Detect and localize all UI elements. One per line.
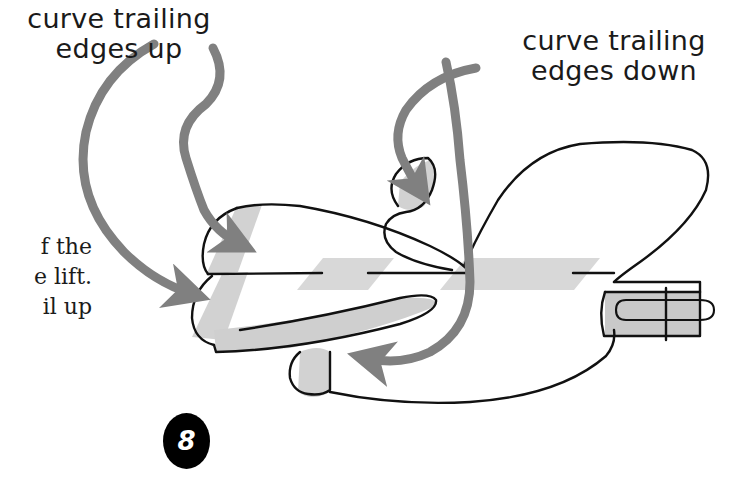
arrow-up-inner xyxy=(184,48,241,244)
fuselage-center-line-a xyxy=(208,273,322,274)
callout-curve-trailing-edges-up: curve trailing edges up xyxy=(0,4,244,64)
tail-step-a xyxy=(614,282,700,292)
figure-canvas: curve trailing edges up curve trailing e… xyxy=(0,0,740,484)
lower-wing-shade xyxy=(214,298,436,352)
clip-shade xyxy=(605,292,700,336)
tail-tab-shade xyxy=(298,348,330,397)
lower-body-outline xyxy=(330,330,614,403)
callout-curve-trailing-edges-down: curve trailing edges down xyxy=(488,26,740,86)
step-number-badge: 8 xyxy=(163,413,210,469)
plane-outline xyxy=(192,142,714,403)
arrow-up-outer xyxy=(83,44,192,294)
body-text-clipped: f the e lift. il up xyxy=(0,232,92,322)
